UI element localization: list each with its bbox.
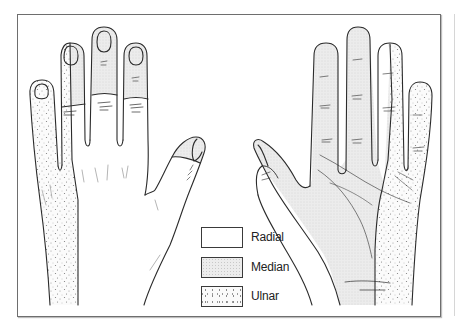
dorsal-median-index [124,43,148,99]
legend-label: Ulnar [251,289,279,303]
legend-item-radial: Radial [201,227,311,249]
legend-item-ulnar: Ulnar [201,286,311,308]
hands-illustration [0,0,457,330]
legend-label: Median [251,260,289,274]
dorsal-hand [30,27,205,305]
legend-item-median: Median [201,257,311,279]
ulnar-swatch [201,286,243,307]
legend-label: Radial [251,230,284,244]
radial-swatch [201,227,243,248]
median-swatch [201,257,243,278]
dorsal-median-middle [92,27,117,95]
